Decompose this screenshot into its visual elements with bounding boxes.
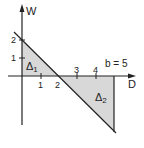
diagram: W D 1 2 3 4 1 2 b = 5 Δ1 Δ2 [0,0,144,148]
y-axis-label: W [26,5,37,17]
x-tick-label: 4 [93,65,98,75]
b-annotation: b = 5 [105,58,128,69]
x-tick-label: 2 [55,80,60,90]
y-tick-label: 2 [11,35,16,45]
x-axis-label: D [128,78,136,90]
y-axis-arrow-icon [20,4,25,12]
x-tick-label: 1 [38,80,43,90]
x-tick-label: 3 [74,65,79,75]
y-tick-label: 1 [11,53,16,63]
